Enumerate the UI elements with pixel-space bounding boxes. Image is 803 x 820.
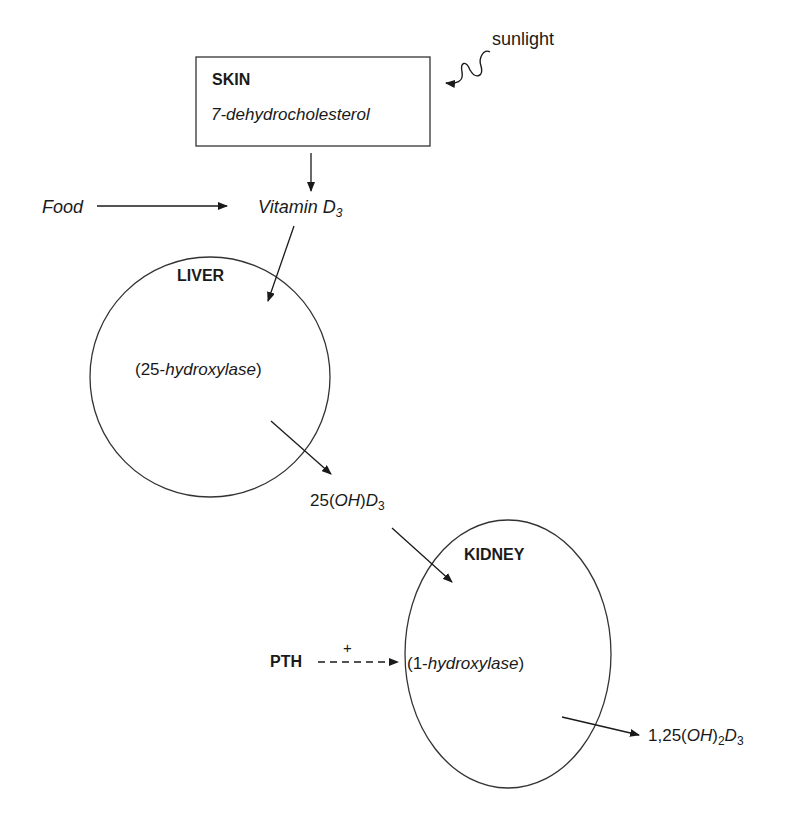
food-label: Food	[42, 198, 83, 216]
skin-title: SKIN	[212, 72, 250, 88]
vitamin-to-liver-arrow	[268, 226, 294, 301]
liver-enzyme: (25-hydroxylase)	[135, 361, 262, 378]
kidney-to-calcitriol-arrow	[562, 717, 639, 735]
pth-label: PTH	[270, 654, 302, 670]
vitamin-d3-subscript: 3	[336, 206, 343, 220]
diagram-canvas	[0, 0, 803, 820]
calcidiol-label: 25(OH)D3	[310, 492, 385, 509]
vitamin-d3-label: Vitamin D3	[258, 198, 342, 216]
kidney-title: KIDNEY	[464, 547, 524, 563]
kidney-enzyme: (1-hydroxylase)	[407, 655, 524, 672]
vitamin-d3-base: Vitamin D	[258, 197, 336, 217]
skin-compound: 7-dehydrocholesterol	[211, 106, 370, 123]
sunlight-wave-arrow	[446, 51, 490, 83]
pth-stimulation-sign: +	[343, 640, 352, 655]
liver-to-calcidiol-arrow	[271, 421, 331, 474]
calcidiol-to-kidney-arrow	[392, 528, 452, 582]
calcitriol-label: 1,25(OH)2D3	[648, 727, 744, 744]
sunlight-label: sunlight	[492, 30, 554, 48]
liver-title: LIVER	[177, 268, 224, 284]
